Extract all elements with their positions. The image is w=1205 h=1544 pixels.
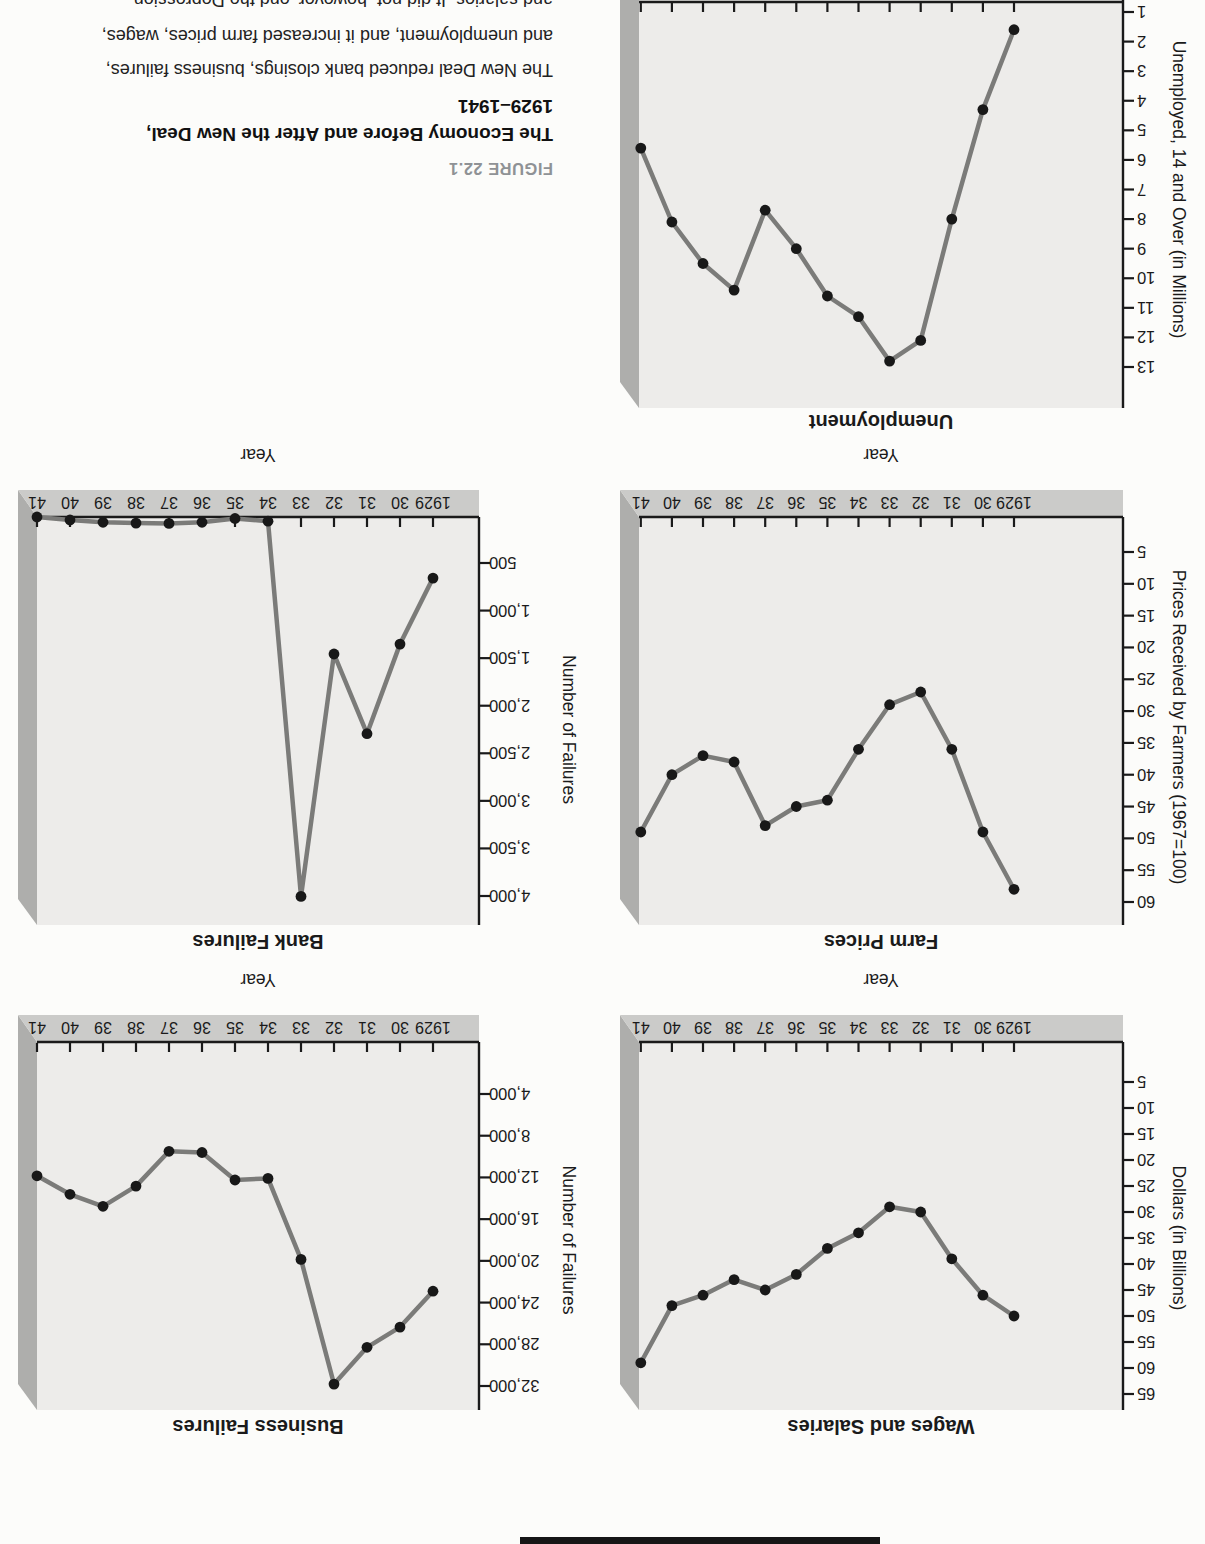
bank_failures-year-label: 30 [391, 494, 409, 511]
wages-data-point [915, 1207, 926, 1218]
wages-y-tick-label: 35 [1137, 1229, 1155, 1247]
bank_failures-year-label: 33 [292, 494, 310, 511]
business_failures-year-label: 40 [61, 1019, 79, 1036]
bank_failures-year-label: 34 [259, 494, 277, 511]
farm_prices-data-point [978, 827, 989, 838]
farm_prices-year-label: 40 [663, 494, 681, 511]
unemployment-data-point [915, 335, 926, 346]
farm_prices-y-tick-label: 50 [1137, 829, 1155, 847]
wages-data-point [698, 1290, 709, 1301]
business_failures-y-tick-label: 24,000 [489, 1294, 539, 1312]
wages-data-point [791, 1269, 802, 1280]
business_failures-year-label: 31 [358, 1019, 376, 1036]
unemployment-y-tick-label: 6 [1137, 151, 1146, 169]
business_failures-y-tick-label: 16,000 [489, 1210, 539, 1228]
bank_failures-data-point [230, 513, 241, 524]
unemployment-y-tick-label: 12 [1137, 328, 1155, 346]
book-page: 5101520253035404550556065192930313233343… [0, 0, 1205, 1544]
business_failures-data-point [296, 1254, 307, 1265]
farm_prices-data-point [946, 744, 957, 755]
bank_failures-side-face [18, 490, 37, 925]
unemployment-data-point [791, 243, 802, 254]
wages-side-face [620, 1015, 639, 1410]
unemployment-y-axis-title: Unemployed, 14 and Over (in Millions) [1169, 41, 1189, 339]
bank_failures-year-label: 37 [160, 494, 178, 511]
farm_prices-x-axis-title: Year [863, 445, 899, 465]
wages-data-point [822, 1243, 833, 1254]
bank_failures-year-label: 41 [28, 494, 46, 511]
bank_failures-year-label: 32 [325, 494, 343, 511]
unemployment-data-point [760, 205, 771, 216]
farm_prices-side-face [620, 490, 639, 925]
bank_failures-y-tick-label: 1,000 [489, 602, 530, 620]
farm_prices-year-label: 1929 [996, 494, 1032, 511]
farm_prices-y-tick-label: 15 [1137, 607, 1155, 625]
unemployment-data-point [698, 258, 709, 269]
business_failures-year-label: 38 [127, 1019, 145, 1036]
unemployment-data-point [635, 143, 646, 154]
wages-data-point [635, 1357, 646, 1368]
unemployment-y-tick-label: 5 [1137, 121, 1146, 139]
wages-y-axis-title: Dollars (in Billions) [1169, 1166, 1189, 1311]
wages-y-tick-label: 5 [1137, 1073, 1146, 1091]
farm_prices-data-point [791, 801, 802, 812]
business_failures-year-label: 39 [94, 1019, 112, 1036]
business_failures-data-point [164, 1146, 175, 1157]
bank_failures-y-tick-label: 500 [489, 554, 517, 572]
wages-data-point [853, 1227, 864, 1238]
wages-year-label: 36 [787, 1019, 805, 1036]
unemployment-y-tick-label: 3 [1137, 62, 1146, 80]
wages-data-point [667, 1300, 678, 1311]
farm_prices-data-point [698, 750, 709, 761]
bank_failures-data-point [164, 518, 175, 529]
business_failures-plot-panel [37, 1042, 479, 1410]
unemployment-y-tick-label: 9 [1137, 240, 1146, 258]
farm_prices-y-tick-label: 30 [1137, 702, 1155, 720]
farm_prices-y-tick-label: 55 [1137, 861, 1155, 879]
wages-data-point [760, 1285, 771, 1296]
farm_prices-y-tick-label: 25 [1137, 670, 1155, 688]
wages-y-tick-label: 15 [1137, 1125, 1155, 1143]
bank_failures-y-tick-label: 3,500 [489, 839, 530, 857]
farm_prices-data-point [915, 687, 926, 698]
unemployment-data-point [729, 285, 740, 296]
bank_failures-data-point [428, 573, 439, 584]
unemployment-side-face [620, 0, 639, 408]
wages-data-point [884, 1201, 895, 1212]
farm_prices-year-label: 32 [912, 494, 930, 511]
business_failures-chart-title: Business Failures [172, 1416, 343, 1438]
bank_failures-data-point [329, 649, 340, 660]
farm_prices-year-label: 31 [943, 494, 961, 511]
wages-year-label: 37 [756, 1019, 774, 1036]
business_failures-y-tick-label: 32,000 [489, 1377, 539, 1395]
bank_failures-y-tick-label: 4,000 [489, 887, 530, 905]
business_failures-y-tick-label: 28,000 [489, 1335, 539, 1353]
wages-year-label: 38 [725, 1019, 743, 1036]
business_failures-year-label: 34 [259, 1019, 277, 1036]
wages-data-point [946, 1253, 957, 1264]
farm_prices-y-tick-label: 5 [1137, 543, 1146, 561]
bank_failures-data-point [395, 639, 406, 650]
business_failures-data-point [329, 1379, 340, 1390]
business_failures-year-label: 41 [28, 1019, 46, 1036]
business_failures-x-axis-title: Year [240, 970, 276, 990]
wages-data-point [978, 1290, 989, 1301]
wages-year-label: 34 [850, 1019, 868, 1036]
unemployment-data-point [978, 104, 989, 115]
bank_failures-year-label: 1929 [415, 494, 451, 511]
farm_prices-year-label: 34 [850, 494, 868, 511]
wages-year-label: 35 [818, 1019, 836, 1036]
unemployment-data-point [822, 291, 833, 302]
business_failures-y-tick-label: 8,000 [489, 1127, 530, 1145]
bank_failures-y-tick-label: 1,500 [489, 649, 530, 667]
business_failures-data-point [98, 1201, 109, 1212]
wages-y-tick-label: 65 [1137, 1385, 1155, 1403]
farm_prices-y-tick-label: 40 [1137, 766, 1155, 784]
wages-y-tick-label: 40 [1137, 1255, 1155, 1273]
farm_prices-y-axis-title: Prices Received by Farmers (1967=100) [1169, 570, 1189, 885]
wages-year-label: 41 [632, 1019, 650, 1036]
unemployment-y-tick-label: 2 [1137, 33, 1146, 51]
farm_prices-y-tick-label: 10 [1137, 575, 1155, 593]
unemployment-y-tick-label: 13 [1137, 358, 1155, 376]
wages-y-tick-label: 45 [1137, 1281, 1155, 1299]
